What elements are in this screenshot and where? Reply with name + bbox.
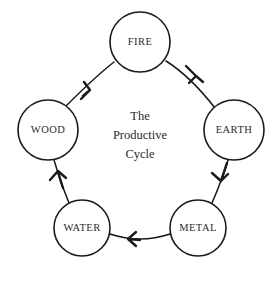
productive-cycle-diagram: FIRE EARTH METAL WATER WOOD The Producti… (0, 0, 280, 281)
node-label-wood: WOOD (31, 124, 65, 135)
edge-wood-to-fire (66, 62, 114, 106)
edge-metal-to-water (110, 234, 170, 239)
node-label-water: WATER (63, 222, 100, 233)
node-label-metal: METAL (179, 222, 217, 233)
arrowhead-metal-to-water (128, 232, 140, 246)
node-earth[interactable]: EARTH (204, 100, 264, 160)
arrowhead-water-to-wood (50, 171, 66, 188)
arrowhead-earth-to-metal (212, 163, 228, 181)
node-wood[interactable]: WOOD (18, 100, 78, 160)
edge-fire-to-earth (166, 61, 215, 108)
node-metal[interactable]: METAL (170, 200, 226, 256)
diagram-title-line-1: The (130, 109, 150, 123)
node-label-fire: FIRE (128, 36, 153, 47)
node-label-earth: EARTH (216, 124, 253, 135)
cycle-svg-canvas: FIRE EARTH METAL WATER WOOD The Producti… (0, 0, 280, 281)
node-water[interactable]: WATER (54, 200, 110, 256)
diagram-title: The Productive Cycle (113, 109, 168, 161)
diagram-title-line-2: Productive (113, 128, 168, 142)
node-fire[interactable]: FIRE (110, 12, 170, 72)
diagram-title-line-3: Cycle (125, 147, 155, 161)
arrowhead-fire-to-earth (186, 66, 203, 83)
